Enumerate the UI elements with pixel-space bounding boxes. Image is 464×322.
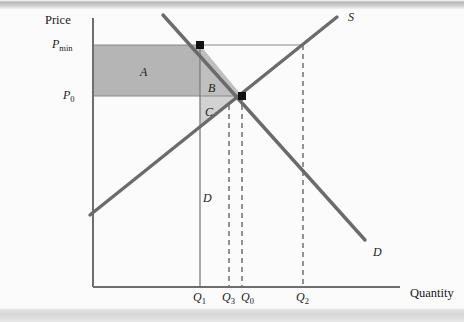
bottom-border-band: [0, 307, 464, 322]
quantity-tick-q3: Q3: [222, 291, 235, 303]
region-label-c: C: [205, 106, 213, 118]
supply-demand-plot: [0, 9, 464, 307]
region-label-d: D: [203, 192, 212, 204]
quantity-demanded-point-marker: [196, 41, 204, 49]
quantity-tick-q0-sub: 0: [250, 296, 254, 306]
demand-curve-label: D: [373, 246, 382, 258]
price-tick-pmin: Pmin: [52, 38, 73, 50]
figure-root: Price Quantity Pmin P0 Q1 Q3 Q0 Q2 A B C…: [0, 0, 464, 322]
quantity-tick-q2-sub: 2: [305, 296, 309, 306]
supply-curve-label: S: [348, 11, 354, 23]
quantity-tick-q1-base: Q: [193, 290, 202, 304]
quantity-tick-q0-base: Q: [241, 290, 250, 304]
quantity-tick-q3-sub: 3: [231, 296, 235, 306]
region-b-shape: [200, 45, 242, 96]
price-tick-p0-sub: 0: [70, 94, 74, 104]
region-label-b: B: [208, 82, 215, 94]
equilibrium-point-marker: [238, 92, 246, 100]
region-label-a: A: [140, 66, 147, 78]
quantity-tick-q0: Q0: [241, 291, 254, 303]
quantity-tick-q1-sub: 1: [202, 296, 206, 306]
price-tick-p0: P0: [63, 89, 75, 101]
y-axis-title: Price: [45, 14, 71, 27]
quantity-tick-q1: Q1: [193, 291, 206, 303]
quantity-tick-q3-base: Q: [222, 290, 231, 304]
x-axis-title: Quantity: [410, 287, 454, 300]
quantity-tick-q2-base: Q: [296, 290, 305, 304]
price-tick-pmin-sub: min: [59, 43, 72, 53]
demand-curve-line: [163, 15, 365, 240]
quantity-tick-q2: Q2: [296, 291, 309, 303]
top-border-band: [0, 0, 464, 9]
